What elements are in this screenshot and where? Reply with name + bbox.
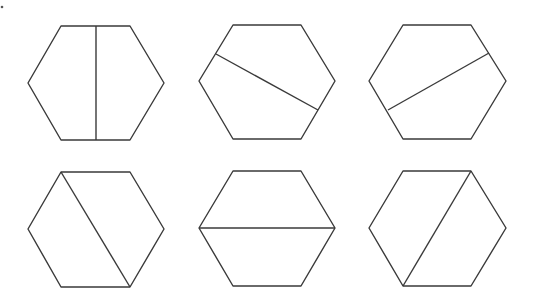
hexagon-1 (28, 26, 164, 140)
hexagon-2 (199, 25, 335, 139)
hexagon-5 (199, 171, 335, 286)
hexagon-4 (28, 172, 164, 287)
hexagon-6 (369, 171, 506, 286)
dividing-line (403, 171, 471, 286)
hexagon-3 (369, 25, 506, 139)
dividing-line (216, 54, 318, 110)
hexagon-division-diagram (0, 0, 535, 295)
dividing-line (61, 172, 130, 287)
dividing-line (388, 53, 489, 110)
corner-mark (1, 6, 4, 9)
